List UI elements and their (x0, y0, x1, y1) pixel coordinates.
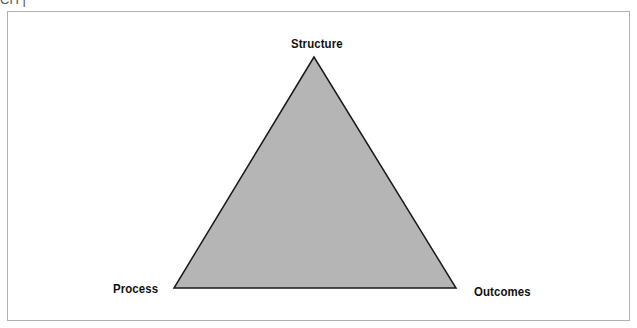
vertex-label-outcomes: Outcomes (474, 284, 531, 299)
vertex-label-process: Process (113, 281, 158, 296)
vertex-label-structure: Structure (291, 36, 343, 51)
triangle-shape (174, 57, 456, 288)
